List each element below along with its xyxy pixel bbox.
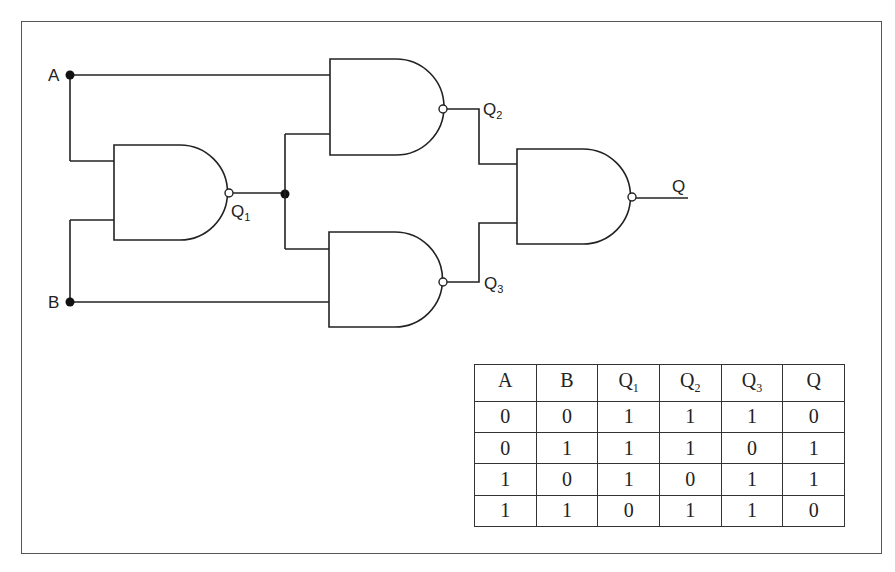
input-b-node <box>66 298 75 307</box>
cell: 1 <box>598 464 660 495</box>
cell: 0 <box>598 495 660 526</box>
cell: 1 <box>783 432 845 463</box>
nand-gate-q <box>517 149 636 244</box>
header-q3: Q3 <box>721 365 783 402</box>
nand-gate-q2 <box>330 59 447 155</box>
output-q-label: Q <box>672 177 685 196</box>
cell: 0 <box>721 432 783 463</box>
header-a: A <box>475 365 537 402</box>
nand-gate-q1 <box>114 145 233 240</box>
wire-a <box>70 75 330 161</box>
header-b: B <box>536 365 598 402</box>
truth-table: A B Q1 Q2 Q3 Q 0 0 1 1 1 0 0 1 1 1 0 1 1… <box>474 364 845 527</box>
cell: 0 <box>783 401 845 432</box>
input-a-label: A <box>48 66 60 85</box>
cell: 1 <box>721 401 783 432</box>
cell: 1 <box>536 495 598 526</box>
cell: 0 <box>475 432 537 463</box>
cell: 1 <box>659 401 721 432</box>
cell: 0 <box>475 401 537 432</box>
table-row: 1 0 1 0 1 1 <box>475 464 845 495</box>
cell: 0 <box>783 495 845 526</box>
q3-label: Q3 <box>484 274 503 295</box>
cell: 1 <box>475 495 537 526</box>
cell: 1 <box>721 495 783 526</box>
cell: 1 <box>536 432 598 463</box>
cell: 0 <box>536 464 598 495</box>
truth-table-header: A B Q1 Q2 Q3 Q <box>475 365 845 402</box>
q1-label: Q1 <box>231 202 250 223</box>
table-row: 0 1 1 1 0 1 <box>475 432 845 463</box>
nand-gate-q3 <box>329 232 447 327</box>
cell: 0 <box>536 401 598 432</box>
header-q1: Q1 <box>598 365 660 402</box>
q2-label: Q2 <box>483 100 502 121</box>
cell: 1 <box>598 432 660 463</box>
cell: 1 <box>659 495 721 526</box>
header-q2: Q2 <box>659 365 721 402</box>
cell: 1 <box>475 464 537 495</box>
wire-q2-q3 <box>447 109 517 282</box>
cell: 0 <box>659 464 721 495</box>
wire-q1-fanout <box>285 134 330 249</box>
cell: 1 <box>721 464 783 495</box>
cell: 1 <box>659 432 721 463</box>
input-b-label: B <box>48 293 59 312</box>
input-a-node <box>66 71 75 80</box>
table-row: 0 0 1 1 1 0 <box>475 401 845 432</box>
table-row: 1 1 0 1 1 0 <box>475 495 845 526</box>
header-q: Q <box>783 365 845 402</box>
cell: 1 <box>598 401 660 432</box>
cell: 1 <box>783 464 845 495</box>
